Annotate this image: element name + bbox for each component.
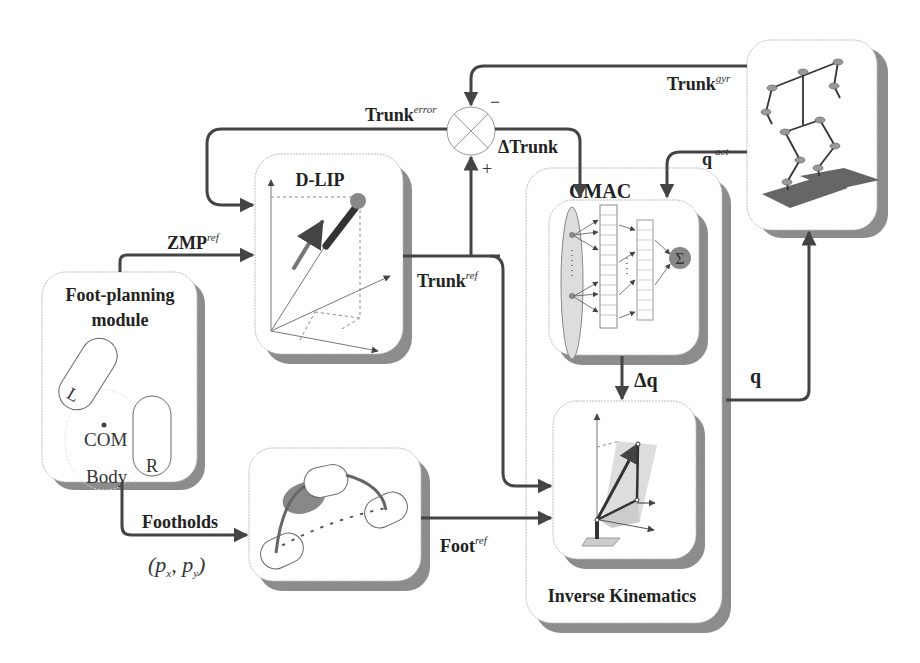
foot-trajectory-block: Foot Trajectory <box>249 446 430 591</box>
foot-planning-title-1: Foot-planning <box>65 285 174 305</box>
zmp-ref-label: ZMPref <box>167 231 221 253</box>
sum-symbol: Σ <box>675 250 684 267</box>
trunk-ref-label: Trunkref <box>417 269 479 291</box>
q-connector <box>726 232 809 400</box>
q-label: q <box>750 365 761 388</box>
control-architecture-diagram: Foot-planning module L R COM Body D-LIP … <box>0 0 920 663</box>
trunk-error-label: Trunkerror <box>365 103 437 125</box>
dlip-title: D-LIP <box>296 170 345 190</box>
minus-sign: − <box>490 92 500 112</box>
inverse-kinematics-title: Inverse Kinematics <box>548 586 696 606</box>
robot-block <box>747 40 888 238</box>
foot-planning-module: Foot-planning module L R COM Body <box>42 272 205 490</box>
foot-ref-label: Footref <box>440 534 489 556</box>
trunk-gyr-label: Trunkgyr <box>667 72 731 94</box>
q-act-label: qact <box>702 145 729 169</box>
com-point-icon <box>102 423 107 428</box>
cmac-title: CMAC <box>569 180 631 202</box>
footholds-coordinates: (px, py) <box>148 552 205 579</box>
cmac-block: Σ <box>549 200 708 365</box>
delta-q-label: Δq <box>634 369 658 392</box>
delta-trunk-label: ΔTrunk <box>498 137 558 157</box>
right-foot-label: R <box>146 456 158 476</box>
foot-planning-title-2: module <box>91 310 148 330</box>
inverse-kinematics-block <box>553 401 705 569</box>
summing-junction: − + <box>447 92 500 179</box>
zmp-ref-connector <box>120 255 253 272</box>
dlip-block: D-LIP <box>255 154 412 364</box>
com-label: COM <box>84 429 127 450</box>
plus-sign: + <box>482 159 492 179</box>
footholds-label: Footholds <box>142 512 218 532</box>
